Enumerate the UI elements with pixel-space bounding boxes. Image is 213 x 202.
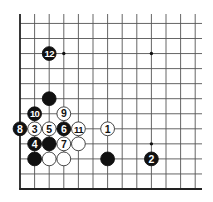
move-number-label: 5 [46,123,52,135]
move-number-label: 6 [61,123,67,135]
black-stone-4: 4 [28,137,42,151]
move-number-label: 4 [32,138,38,150]
black-stone [28,152,42,166]
move-number-label: 10 [30,108,40,119]
black-stone-6: 6 [57,122,71,136]
white-stone-icon [72,137,86,151]
black-stone-8: 8 [13,122,27,136]
black-stone [101,152,115,166]
move-number-label: 2 [148,153,154,165]
move-number-label: 12 [45,48,55,59]
white-stone-3: 3 [28,122,42,136]
white-stone-9: 9 [57,107,71,121]
move-number-label: 3 [32,123,38,135]
move-number-label: 7 [61,138,67,150]
white-stone-1: 1 [101,122,115,136]
black-stone-icon [101,152,115,166]
black-stone-12: 12 [42,47,56,61]
star-point-icon [150,52,153,55]
black-stone [42,137,56,151]
white-stone [57,152,71,166]
move-number-label: 11 [74,124,84,135]
white-stone-5: 5 [42,122,56,136]
black-stone-icon [42,137,56,151]
white-stone-icon [57,152,71,166]
white-stone-7: 7 [57,137,71,151]
move-number-label: 1 [105,123,111,135]
white-stone [72,137,86,151]
move-number-label: 8 [17,123,23,135]
black-stone-icon [28,152,42,166]
white-stone-icon [42,152,56,166]
go-board-diagram: 123456789101112 [0,0,213,202]
move-number-label: 9 [61,107,67,119]
black-stone [42,92,56,106]
star-point-icon [62,52,65,55]
star-point-icon [150,142,153,145]
white-stone-11: 11 [72,122,86,136]
black-stone-icon [42,92,56,106]
black-stone-2: 2 [145,152,159,166]
white-stone [42,152,56,166]
black-stone-10: 10 [28,107,42,121]
